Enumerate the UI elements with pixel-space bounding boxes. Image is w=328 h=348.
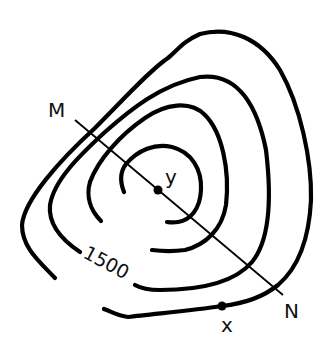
- transect-start-label: M: [48, 98, 65, 122]
- point-x-marker: [218, 302, 227, 311]
- contour-line-inner: [121, 146, 201, 223]
- point-y-label: y: [165, 165, 177, 189]
- point-x-label: x: [221, 313, 233, 337]
- transect-end-label: N: [284, 299, 299, 323]
- elevation-label: 1500: [80, 241, 133, 283]
- point-y-marker: [154, 186, 163, 195]
- contour-map: M N y x 1500: [0, 0, 328, 348]
